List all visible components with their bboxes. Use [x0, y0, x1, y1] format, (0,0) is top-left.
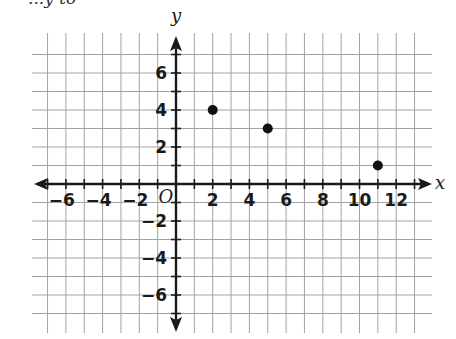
tick-labels: −6−4−224681012642−2−4−6Oxy: [49, 5, 445, 305]
x-tick-label: 12: [384, 190, 408, 210]
x-tick-label: 10: [348, 190, 372, 210]
data-point: [373, 161, 383, 171]
y-tick-label: −4: [141, 248, 167, 268]
x-tick-label: −6: [49, 190, 75, 210]
x-tick-label: 8: [317, 190, 329, 210]
x-tick-label: 4: [243, 190, 255, 210]
origin-label: O: [159, 186, 174, 207]
x-tick-label: −4: [86, 190, 112, 210]
y-tick-label: 2: [155, 137, 167, 157]
data-points: [208, 105, 383, 171]
x-tick-label: 6: [280, 190, 292, 210]
y-tick-label: 6: [155, 63, 167, 83]
x-tick-label: 2: [207, 190, 219, 210]
x-tick-label: −2: [122, 190, 148, 210]
x-axis-label: x: [435, 172, 445, 193]
axes: [34, 36, 432, 332]
data-point: [263, 124, 273, 134]
y-tick-label: −6: [141, 285, 167, 305]
y-axis-label: y: [170, 5, 182, 26]
data-point: [208, 105, 218, 115]
y-tick-label: 4: [155, 100, 167, 120]
coordinate-plane: −6−4−224681012642−2−4−6Oxy: [0, 0, 456, 339]
y-tick-label: −2: [141, 211, 167, 231]
